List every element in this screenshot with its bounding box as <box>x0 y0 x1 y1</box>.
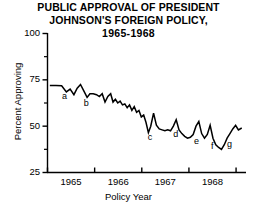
x-tick-label: 1967 <box>145 177 185 187</box>
data-series-line <box>50 84 242 149</box>
annotation-label-f: f <box>211 142 214 151</box>
x-axis-ticks <box>48 168 237 173</box>
annotation-label-c: c <box>148 133 153 142</box>
x-tick-label: 1966 <box>98 177 138 187</box>
annotation-label-e: e <box>194 137 199 146</box>
x-axis-label: Policy Year <box>0 191 257 202</box>
y-axis-ticks <box>43 34 48 173</box>
annotation-label-d: d <box>173 130 178 139</box>
y-axis-label: Percent Approving <box>12 47 23 157</box>
annotation-label-b: b <box>84 99 89 108</box>
annotation-label-g: g <box>227 140 232 149</box>
annotation-label-a: a <box>62 92 67 101</box>
x-tick-label: 1965 <box>51 177 91 187</box>
y-tick-label: 25 <box>8 167 40 177</box>
x-tick-label: 1968 <box>193 177 233 187</box>
axis-lines <box>47 33 246 173</box>
y-tick-label: 100 <box>8 28 40 38</box>
chart-figure: PUBLIC APPROVAL OF PRESIDENT JOHNSON'S F… <box>0 0 257 210</box>
